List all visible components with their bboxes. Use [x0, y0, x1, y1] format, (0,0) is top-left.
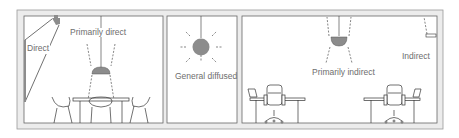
- lighting-types-diagram: Direct Primarily direct General diffused: [0, 0, 459, 138]
- label-direct: Direct: [27, 43, 50, 53]
- panel-office: Indirect Primarily indirect: [242, 16, 437, 123]
- label-general-diffused: General diffused: [175, 71, 237, 81]
- label-primarily-indirect: Primarily indirect: [312, 67, 375, 77]
- label-indirect: Indirect: [402, 51, 431, 61]
- panel-diffused: General diffused: [167, 16, 237, 123]
- monitor-icon: [248, 89, 257, 97]
- panel-dining: Direct Primarily direct: [24, 15, 163, 123]
- label-primarily-direct: Primarily direct: [70, 27, 127, 37]
